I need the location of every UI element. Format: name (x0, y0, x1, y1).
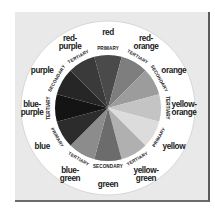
color-label-blue: blue (35, 142, 51, 151)
wheel-wedges (55, 55, 161, 161)
color-label-purple: purple (31, 66, 54, 75)
color-label-green: green (98, 180, 119, 189)
category-label-yellow-orange: TERTIARY (165, 96, 170, 120)
color-label-yellow-orange: yellow-orange (172, 100, 198, 117)
color-label-blue-green: blue-green (60, 166, 81, 183)
color-label-yellow: yellow (162, 142, 186, 151)
color-wheel: PRIMARYTERTIARYSECONDARYTERTIARYPRIMARYT… (0, 0, 215, 210)
category-label-green: SECONDARY (93, 164, 123, 169)
category-label-red: PRIMARY (97, 46, 119, 51)
color-label-orange: orange (161, 66, 187, 75)
color-label-yellow-green: yellow-green (134, 166, 160, 183)
color-label-red: red (102, 28, 114, 37)
category-label-blue-purple: TERTIARY (46, 96, 51, 120)
color-label-blue-purple: blue-purple (21, 100, 44, 117)
